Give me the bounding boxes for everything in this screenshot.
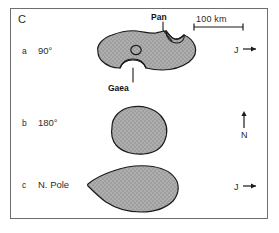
row-label-a: 90° (38, 45, 52, 56)
direction-marker-c: J (234, 182, 239, 192)
row-label-c: N. Pole (38, 179, 69, 190)
row-letter-a: a (22, 46, 27, 56)
figure-panel-c: C a 90° b 180° c N. Pole Pan Gaea 100 km… (0, 0, 279, 233)
panel-letter: C (18, 13, 26, 25)
row-letter-c: c (22, 180, 26, 190)
row-label-b: 180° (38, 117, 58, 128)
row-letter-b: b (22, 118, 27, 128)
feature-label-gaea: Gaea (108, 83, 129, 93)
scale-bar-label: 100 km (196, 14, 227, 24)
direction-marker-b: N (241, 130, 248, 140)
direction-marker-a: J (234, 45, 239, 55)
feature-label-pan: Pan (151, 12, 167, 22)
